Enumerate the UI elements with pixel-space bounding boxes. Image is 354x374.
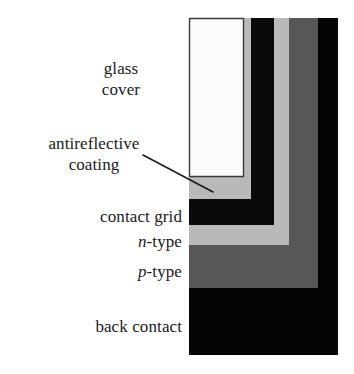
label-glass-cover-line1: glass bbox=[60, 58, 182, 79]
label-n-type: n-type bbox=[10, 231, 182, 252]
label-p-type-suffix: -type bbox=[147, 262, 182, 281]
label-glass-cover-line2: cover bbox=[60, 79, 182, 100]
label-glass-cover: glass cover bbox=[60, 58, 182, 100]
layer-glass-cover bbox=[190, 19, 244, 177]
label-n-type-suffix: -type bbox=[147, 232, 182, 251]
label-antireflective-line2: coating bbox=[6, 154, 182, 175]
label-n-type-symbol: n bbox=[138, 232, 147, 251]
label-antireflective-line1: antireflective bbox=[6, 133, 182, 154]
label-back-contact: back contact bbox=[10, 316, 182, 337]
solar-cell-diagram: glass cover antireflective coating conta… bbox=[0, 0, 354, 374]
label-antireflective-coating: antireflective coating bbox=[6, 133, 182, 175]
label-contact-grid: contact grid bbox=[10, 206, 182, 227]
label-p-type: p-type bbox=[10, 261, 182, 282]
label-p-type-symbol: p bbox=[138, 262, 147, 281]
